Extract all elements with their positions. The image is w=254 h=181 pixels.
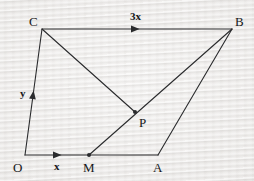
- segment-b-a: [158, 29, 232, 155]
- segment-c-p: [42, 29, 135, 112]
- vertex-label-p: P: [139, 116, 146, 129]
- vector-label-3x: 3x: [130, 11, 141, 22]
- arrowhead-vector-3x: [131, 26, 140, 33]
- vertex-label-o: O: [13, 161, 22, 174]
- arrowhead-vector-x: [53, 152, 62, 159]
- vertex-label-a: A: [153, 161, 162, 174]
- vertex-label-m: M: [83, 161, 95, 174]
- diagram-page: OCBAMP3xxy: [0, 0, 254, 181]
- arrowhead-group: [29, 26, 140, 159]
- vertex-dot-p: [133, 110, 137, 114]
- vertex-label-c: C: [29, 15, 38, 28]
- geometry-figure: [0, 0, 254, 181]
- vertex-label-b: B: [235, 15, 244, 28]
- segment-group: [25, 29, 232, 155]
- vector-label-x: x: [54, 161, 60, 172]
- vertex-dot-m: [87, 153, 91, 157]
- vector-label-y: y: [20, 88, 26, 99]
- segment-m-b: [89, 29, 232, 155]
